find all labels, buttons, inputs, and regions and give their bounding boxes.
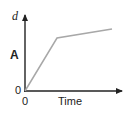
y-mark-label: A (10, 49, 19, 61)
data-line (25, 29, 112, 91)
x-axis-label: Time (58, 96, 82, 107)
y-origin-label: 0 (15, 85, 21, 96)
x-origin-label: 0 (22, 96, 28, 107)
y-axis-label: d (12, 10, 18, 22)
